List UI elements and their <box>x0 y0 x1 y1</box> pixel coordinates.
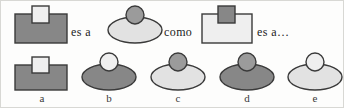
option-a-cap-square <box>32 57 49 73</box>
option-b-cap-circle <box>100 53 118 71</box>
option-c-cap-circle <box>169 53 187 71</box>
option-e[interactable] <box>288 53 342 90</box>
option-c[interactable] <box>151 53 205 90</box>
option-b[interactable] <box>82 53 136 90</box>
connector-text-3: es a… <box>257 25 289 40</box>
stem-figure-2 <box>108 6 162 43</box>
option-label-a[interactable]: a <box>32 92 52 104</box>
stem-figure-2-cap-circle <box>126 6 144 24</box>
visual-analogy-puzzle: es acomoes a… abcde <box>0 0 344 108</box>
option-e-cap-circle <box>306 53 324 71</box>
stem-figure-3-cap-square <box>218 6 235 23</box>
option-label-c[interactable]: c <box>168 92 188 104</box>
connector-text-1: es a <box>71 25 91 40</box>
option-label-d[interactable]: d <box>237 92 257 104</box>
stem-figure-3 <box>202 6 252 43</box>
stem-figure-1-cap-square <box>32 6 49 23</box>
option-d-cap-circle <box>238 53 256 71</box>
option-d[interactable] <box>220 53 274 90</box>
connector-text-2: como <box>164 25 192 40</box>
stem-figure-1 <box>15 6 67 43</box>
option-label-e[interactable]: e <box>305 92 325 104</box>
option-label-b[interactable]: b <box>99 92 119 104</box>
option-a[interactable] <box>15 57 67 90</box>
